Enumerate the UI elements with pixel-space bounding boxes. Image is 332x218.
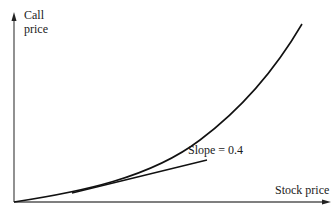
call-price-curve: [14, 24, 302, 202]
tangent-line: [72, 160, 207, 193]
y-axis-label-line1: Call: [24, 8, 48, 22]
x-axis-label: Stock price: [275, 183, 329, 197]
y-axis-arrowhead-icon: [12, 12, 17, 21]
x-axis-arrowhead-icon: [322, 200, 331, 205]
slope-annotation: Slope = 0.4: [188, 143, 243, 157]
y-axis-label-line2: price: [24, 22, 48, 36]
y-axis-label: Call price: [24, 8, 48, 36]
